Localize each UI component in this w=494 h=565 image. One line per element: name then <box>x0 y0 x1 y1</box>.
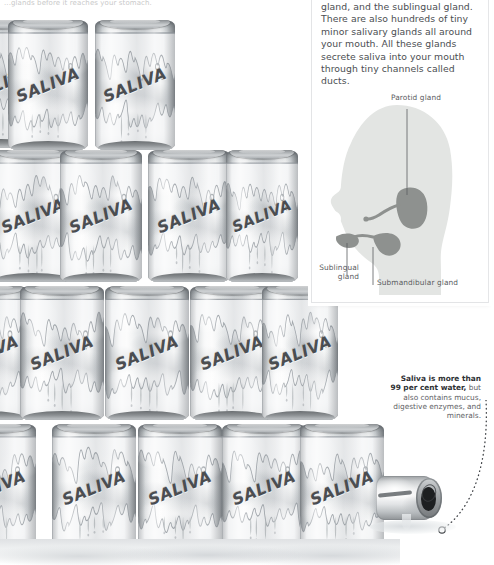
can-bottom-rim <box>229 273 295 282</box>
label-parotid-gland: Parotid gland <box>391 93 441 102</box>
saliva-can: SALIVA <box>222 424 306 552</box>
label-sublingual-gland-line2: gland <box>307 272 359 281</box>
saliva-can: SALIVA <box>0 424 36 552</box>
can-bottom-rim <box>151 273 226 282</box>
saliva-can: SALIVA <box>300 424 384 552</box>
can-bottom-rim <box>23 411 100 420</box>
parotid-duct-tip <box>363 216 368 221</box>
info-panel-body: gland, and the sublingual gland. There a… <box>321 1 479 88</box>
floor-spill <box>0 543 400 565</box>
saliva-can: SALIVA <box>60 150 142 282</box>
saliva-can: SALIVA <box>105 286 189 420</box>
reflective-floor <box>0 539 400 565</box>
saliva-can: SALIVA <box>148 150 230 282</box>
sublingual-gland-shape <box>336 234 359 248</box>
can-bottom-rim <box>98 141 172 150</box>
salivary-gland-diagram: Parotid gland Sublingual gland Submandib… <box>311 95 487 295</box>
saliva-can: SALIVA <box>226 150 298 282</box>
can-bottom-rim <box>265 411 335 420</box>
saliva-can: SALIVA <box>52 424 136 552</box>
label-sublingual-gland-line1: Sublingual <box>307 263 359 272</box>
caption-bold-line1: Saliva is more than <box>401 374 481 383</box>
saliva-can: SALIVA <box>95 20 175 150</box>
can-bottom-rim <box>108 411 185 420</box>
label-submandibular-gland: Submandibular gland <box>377 278 458 287</box>
caption-bold-line2: 99 per cent water, <box>391 383 467 392</box>
can-dent <box>378 490 412 498</box>
can-bottom-rim <box>193 411 270 420</box>
page-root: ...glands before it reaches your stomach… <box>0 0 494 565</box>
pouring-liquid <box>402 514 411 530</box>
panel-paragraph: gland, and the sublingual gland. There a… <box>321 1 479 88</box>
saliva-can: SALIVA <box>262 286 338 420</box>
saliva-can: SALIVA <box>20 286 104 420</box>
can-bottom-rim <box>63 273 138 282</box>
tipped-spilling-can <box>376 470 454 532</box>
saliva-can: SALIVA <box>138 424 222 552</box>
spill-puddle <box>370 520 456 534</box>
saliva-can: SALIVA <box>8 20 88 150</box>
can-bottom-rim <box>11 141 85 150</box>
